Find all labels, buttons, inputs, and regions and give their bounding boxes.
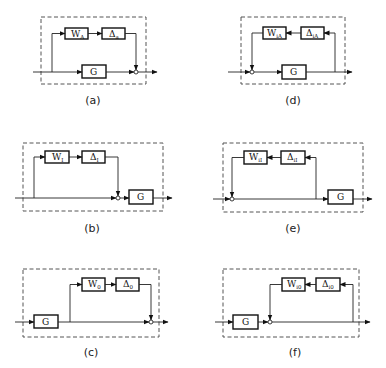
panel-caption: (d): [285, 94, 301, 107]
summing-junction: [268, 320, 272, 324]
signal-line: [340, 285, 353, 323]
summing-junction: [134, 70, 138, 74]
panel-f: Wi0 Δi0 G (f): [215, 269, 370, 359]
plant-label: G: [290, 67, 297, 77]
panel-caption: (b): [84, 222, 100, 235]
plant-label: G: [42, 317, 49, 327]
plant-label: G: [242, 317, 249, 327]
summing-junction: [149, 320, 153, 324]
panel-a: WA Δa G (a): [33, 17, 157, 107]
signal-line: [52, 34, 65, 73]
signal-line: [232, 158, 244, 198]
signal-line: [34, 157, 45, 198]
signal-line: [139, 285, 151, 321]
panel-caption: (c): [84, 346, 99, 359]
signal-line: [270, 285, 282, 321]
panel-c: W0 Δ0 G (c): [15, 269, 168, 359]
panel-d: WiA ΔiA G (d): [228, 17, 352, 107]
signal-line: [125, 34, 136, 71]
summing-junction: [250, 70, 254, 74]
panel-e: WiI ΔiI G (e): [213, 143, 372, 235]
uncertainty-block-diagrams: WA Δa G (a) WiA ΔiA G (d) WI: [0, 0, 386, 368]
plant-label: G: [137, 192, 144, 202]
signal-line: [324, 33, 335, 72]
panel-caption: (f): [289, 346, 301, 359]
signal-line: [305, 158, 316, 200]
signal-line: [70, 285, 82, 323]
plant-label: G: [337, 192, 344, 202]
panel-caption: (e): [285, 222, 300, 235]
summing-junction: [116, 196, 120, 200]
panel-b: WI ΔI G (b): [15, 143, 172, 235]
signal-line: [252, 33, 263, 70]
signal-line: [105, 157, 118, 196]
panel-caption: (a): [85, 94, 100, 107]
plant-label: G: [90, 67, 97, 77]
summing-junction: [230, 197, 234, 201]
